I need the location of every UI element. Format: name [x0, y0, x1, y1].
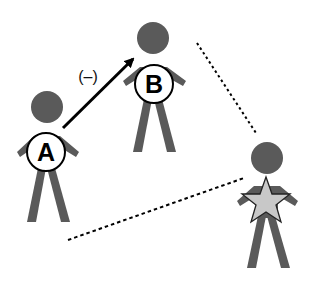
edge-label-negative: (–) — [78, 68, 98, 85]
head — [31, 91, 63, 123]
right-leg — [47, 168, 70, 222]
right-leg — [267, 216, 290, 268]
arrow-edge-a-b — [63, 59, 133, 128]
head — [137, 22, 169, 54]
right-leg — [154, 99, 176, 152]
person-figure-b: B — [123, 22, 186, 152]
person-figure-c — [237, 142, 298, 268]
left-leg — [27, 168, 46, 222]
relations-diagram: A B (–) — [0, 0, 314, 282]
left-leg — [133, 99, 152, 152]
person-figure-a: A — [17, 91, 79, 222]
dotted-edge-b-c — [197, 43, 256, 133]
dotted-edge-a-c — [68, 178, 244, 240]
figure-label: A — [37, 138, 55, 166]
figure-label: B — [145, 70, 163, 98]
head — [251, 142, 283, 174]
left-leg — [247, 216, 266, 268]
